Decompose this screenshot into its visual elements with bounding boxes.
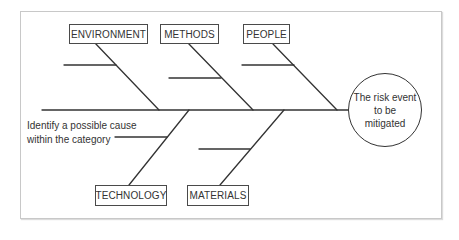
category-label: PEOPLE <box>246 29 287 40</box>
bone-people <box>273 44 337 110</box>
effect-text-line: to be <box>354 104 417 117</box>
bone-technology <box>129 110 189 185</box>
category-box-people: PEOPLE <box>243 24 290 44</box>
effect-text-line: The risk event <box>354 91 417 104</box>
cause-annotation: Identify a possible cause within the cat… <box>27 119 137 147</box>
category-label: METHODS <box>164 29 215 40</box>
category-box-environment: ENVIRONMENT <box>69 24 148 44</box>
category-box-technology: TECHNOLOGY <box>95 185 167 206</box>
bone-methods <box>188 43 253 110</box>
category-label: TECHNOLOGY <box>96 190 167 201</box>
category-label: MATERIALS <box>190 190 247 201</box>
bone-environment <box>95 43 159 110</box>
bone-materials <box>220 110 284 185</box>
effect-circle: The risk event to be mitigated <box>348 73 422 147</box>
category-box-methods: METHODS <box>160 24 219 44</box>
category-box-materials: MATERIALS <box>187 185 249 206</box>
effect-text-line: mitigated <box>354 117 417 130</box>
annotation-line: Identify a possible cause <box>27 119 137 133</box>
category-label: ENVIRONMENT <box>71 29 146 40</box>
annotation-line: within the category <box>27 133 137 147</box>
